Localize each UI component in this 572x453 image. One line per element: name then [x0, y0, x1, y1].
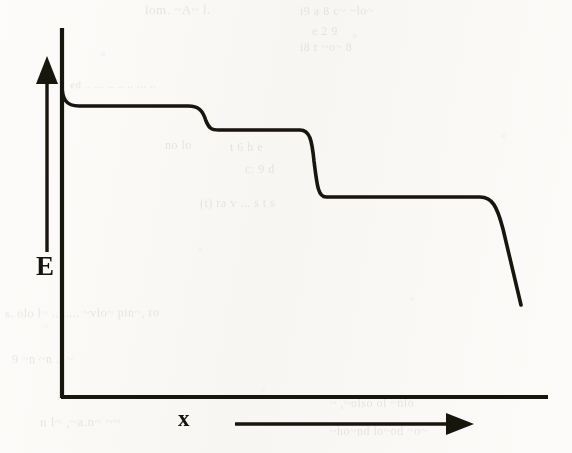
y-axis-label: E: [36, 253, 54, 280]
x-axis-label: x: [178, 407, 190, 430]
plot-canvas: [0, 0, 572, 453]
right-arrow-icon: [446, 413, 474, 435]
energy-staircase-curve: [62, 85, 521, 305]
scanned-figure: lom. ~A~ l.i9 a 8 c~ ~lo~e 2 9i8 r ~o~ 8…: [0, 0, 572, 453]
up-arrow-icon: [36, 56, 58, 84]
